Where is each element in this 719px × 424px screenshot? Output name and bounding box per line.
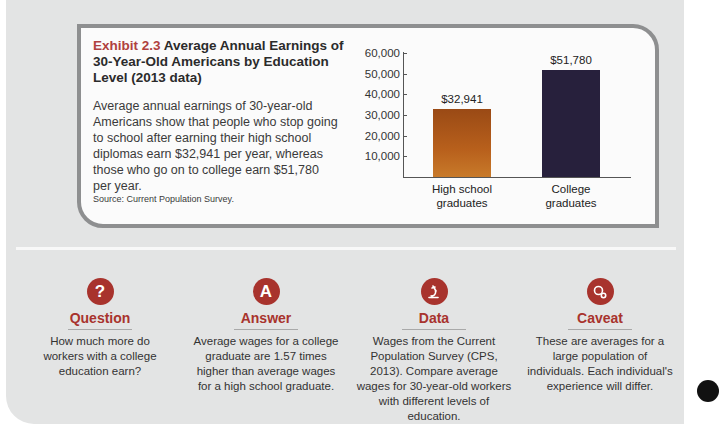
y-tick [403,94,407,95]
y-tick [403,74,407,75]
panel-data: Data Wages from the Current Population S… [350,278,518,424]
bar [433,109,491,177]
panel-rule [402,329,466,330]
y-tick-label: 60,000 [352,47,400,59]
bar-value-label: $51,780 [531,54,611,66]
panel-title: Data [350,309,518,327]
y-tick [403,53,407,54]
panel-rule [234,329,298,330]
page-edge-tab [697,380,719,402]
panel-text: How much more do workers with a college … [30,334,170,379]
panel-text: Average wages for a college graduate are… [191,334,341,394]
question-icon: ? [87,278,114,305]
exhibit-number: Exhibit 2.3 [93,38,161,53]
panel-title: Question [16,309,184,327]
section-divider [16,247,676,250]
x-category-label: High schoolgraduates [412,182,512,210]
panel-caveat: Caveat These are averages for a large po… [516,278,684,394]
answer-icon: A [253,278,280,305]
bar [542,70,600,177]
exhibit-source: Source: Current Population Survey. [93,194,234,204]
panel-rule [68,329,132,330]
y-tick-label: 30,000 [352,109,400,121]
microscope-icon [421,278,448,305]
exhibit-description: Average annual earnings of 30-year-old A… [93,98,338,194]
y-tick [403,136,407,137]
x-category-label: Collegegraduates [521,182,621,210]
panel-question: ? Question How much more do workers with… [16,278,184,379]
panel-title: Answer [182,309,350,327]
panel-text: These are averages for a large populatio… [525,334,675,394]
panel-rule [568,329,632,330]
y-tick-label: 50,000 [352,68,400,80]
caveat-gears-icon [587,278,614,305]
panel-title: Caveat [516,309,684,327]
y-tick-label: 20,000 [352,130,400,142]
exhibit-title: Exhibit 2.3 Average Annual Earnings of 3… [93,38,353,86]
panel-answer: A Answer Average wages for a college gra… [182,278,350,394]
x-axis [403,177,631,178]
y-tick-label: 10,000 [352,150,400,162]
y-tick-label: 40,000 [352,88,400,100]
y-tick [403,156,407,157]
y-tick [403,115,407,116]
panel-text: Wages from the Current Population Survey… [354,334,514,424]
bar-value-label: $32,941 [422,93,502,105]
